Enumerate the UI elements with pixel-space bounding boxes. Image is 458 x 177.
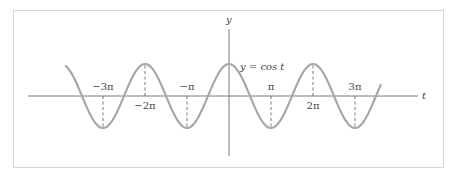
tick-label: −3π xyxy=(92,81,114,92)
y-axis-label: y xyxy=(225,14,232,25)
t-axis-label: t xyxy=(422,90,427,101)
tick-label: π xyxy=(268,81,275,92)
cosine-chart: −3π−2π−ππ2π3π y t y = cos t xyxy=(0,0,458,177)
tick-label: −π xyxy=(180,81,195,92)
tick-label: 3π xyxy=(349,81,362,92)
tick-label: −2π xyxy=(134,100,156,111)
function-label: y = cos t xyxy=(239,61,285,72)
tick-label: 2π xyxy=(307,100,320,111)
